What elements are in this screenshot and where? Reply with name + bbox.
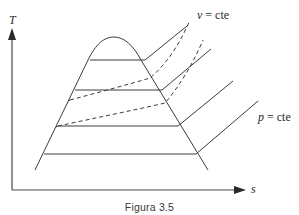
- isobar-slant-4: [196, 101, 258, 154]
- isobar-slant-2: [162, 49, 211, 90]
- isochore-label: v = cte: [197, 9, 229, 21]
- isobar-label: p = cte: [258, 111, 291, 123]
- axes: [12, 38, 236, 190]
- isobar-slant-1: [145, 26, 187, 60]
- isochore-2: [58, 40, 203, 126]
- x-axis-arrow-icon: [234, 186, 246, 194]
- isobar-slant-3: [178, 81, 233, 126]
- x-axis-label: s: [251, 183, 256, 195]
- isobars-two-phase: [44, 60, 196, 154]
- isochores: [58, 20, 203, 126]
- y-axis-arrow-icon: [8, 28, 16, 40]
- ts-diagram-figure: T s v = cte p = cte Figura 3.5: [0, 0, 299, 215]
- isochore-label-rest: = cte: [202, 8, 229, 22]
- figure-caption: Figura 3.5: [0, 201, 299, 213]
- saturation-dome: [35, 37, 208, 170]
- isobar-label-rest: = cte: [264, 110, 291, 124]
- y-axis-label: T: [9, 14, 16, 26]
